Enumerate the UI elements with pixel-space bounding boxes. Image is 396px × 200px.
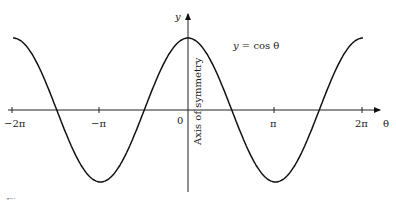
figure-caption: Figure [6, 196, 40, 200]
tick-label-zero: 0 [177, 115, 183, 126]
y-axis-label: y [174, 11, 181, 22]
function-label: y = cos θ [232, 40, 279, 51]
tick-label-pi: π [270, 118, 277, 129]
cosine-graph: −2π −π 0 π 2π θ y y = cos θ Axis of symm… [0, 0, 396, 200]
tick-label-neg-pi: −π [91, 118, 106, 129]
x-axis-label: θ [383, 118, 389, 129]
axis-of-symmetry-label: Axis of symmetry [192, 57, 203, 146]
function-label-rest: = cos θ [239, 40, 280, 51]
tick-label-neg-2pi: −2π [4, 118, 26, 129]
tick-label-2pi: 2π [355, 118, 368, 129]
